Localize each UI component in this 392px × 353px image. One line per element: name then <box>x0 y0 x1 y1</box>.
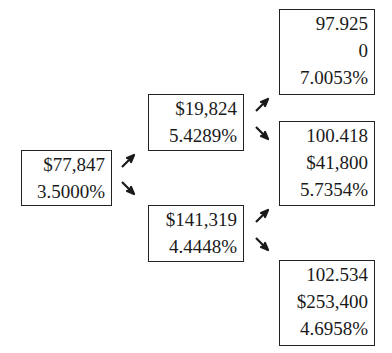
arrow-down-right-icon <box>254 125 270 141</box>
up-up-rate: 7.0053% <box>284 64 368 91</box>
down-down-rate: 4.6958% <box>284 315 368 342</box>
up-up-node: 97.925 0 7.0053% <box>279 9 375 95</box>
up-node: $19,824 5.4289% <box>148 94 244 151</box>
down-down-node: 102.534 $253,400 4.6958% <box>279 260 375 346</box>
up-down-price: 100.418 <box>284 122 368 149</box>
up-up-price: 97.925 <box>284 10 368 37</box>
down-down-value: $253,400 <box>284 288 368 315</box>
arrow-up-right-icon <box>120 153 136 169</box>
down-node: $141,319 4.4448% <box>148 205 244 262</box>
down-down-price: 102.534 <box>284 261 368 288</box>
root-node: $77,847 3.5000% <box>21 150 112 206</box>
up-down-value: $41,800 <box>284 149 368 176</box>
arrow-down-right-icon <box>120 180 136 196</box>
root-rate: 3.5000% <box>26 178 105 205</box>
down-node-rate: 4.4448% <box>153 233 237 260</box>
root-value: $77,847 <box>26 151 105 178</box>
arrow-up-right-icon <box>254 208 270 224</box>
arrow-up-right-icon <box>254 97 270 113</box>
up-node-rate: 5.4289% <box>153 122 237 149</box>
up-up-value: 0 <box>284 37 368 64</box>
arrow-down-right-icon <box>254 236 270 252</box>
up-down-rate: 5.7354% <box>284 176 368 203</box>
up-node-value: $19,824 <box>153 95 237 122</box>
down-node-value: $141,319 <box>153 206 237 233</box>
up-down-node: 100.418 $41,800 5.7354% <box>279 121 375 206</box>
